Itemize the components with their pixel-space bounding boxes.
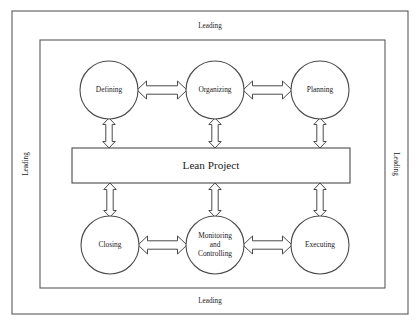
node-organizing[interactable]: Organizing (186, 61, 244, 119)
connector-organizing-center (209, 118, 221, 148)
connector-monitoring-executing (243, 236, 292, 254)
node-label-organizing: Organizing (198, 85, 231, 94)
node-label-closing: Closing (99, 240, 122, 249)
node-planning[interactable]: Planning (291, 61, 349, 119)
node-monitoring-and-controlling[interactable]: MonitoringandControlling (186, 216, 244, 274)
node-defining[interactable]: Defining (80, 61, 138, 119)
connector-organizing-planning (243, 81, 292, 99)
node-label-line: Organizing (198, 85, 231, 94)
node-label-executing: Executing (305, 240, 335, 249)
node-label-line: Executing (305, 240, 335, 249)
node-label-line: Closing (99, 240, 122, 249)
diagram-canvas: Leading Leading Leading Leading Lean Pro… (0, 0, 420, 328)
node-closing[interactable]: Closing (81, 216, 139, 274)
node-label-line: Planning (307, 85, 334, 94)
edge-label-bottom: Leading (198, 297, 222, 305)
edge-label-right: Leading (392, 152, 400, 176)
connector-closing-monitoring (138, 236, 187, 254)
connector-center-closing (104, 183, 116, 217)
connector-planning-center (314, 118, 326, 148)
connector-defining-organizing (137, 81, 187, 99)
edge-label-left: Leading (22, 152, 30, 176)
connector-center-monitoring (209, 183, 221, 217)
edge-label-top: Leading (198, 22, 222, 30)
node-label-line: Defining (96, 85, 123, 94)
node-label-planning: Planning (307, 85, 334, 94)
node-executing[interactable]: Executing (291, 216, 349, 274)
connector-center-executing (314, 183, 326, 217)
connector-defining-center (103, 118, 115, 148)
center-box-label: Lean Project (183, 159, 241, 171)
node-label-line: Controlling (198, 248, 232, 257)
lean-project-diagram: Leading Leading Leading Leading Lean Pro… (0, 0, 420, 328)
node-label-defining: Defining (96, 85, 123, 94)
